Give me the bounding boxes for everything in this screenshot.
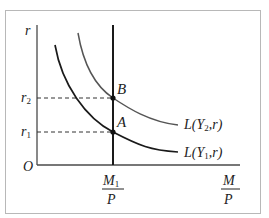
x-axis-label-numerator: M: [222, 173, 236, 188]
origin-label: O: [23, 159, 33, 174]
curve-y1-label: L(Y1,r): [183, 145, 223, 161]
supply-label-denominator: P: [106, 192, 116, 207]
curve-y2-label: L(Y2,r): [183, 117, 223, 133]
supply-label-numerator: M1: [102, 173, 119, 189]
point-a-marker: [110, 129, 115, 134]
point-b-label: B: [117, 81, 126, 97]
point-b-marker: [110, 95, 115, 100]
money-market-diagram: r r2 r1 O B A L(Y2,r) L(Y1,r) M1 P M P: [0, 0, 269, 218]
r1-label: r1: [21, 124, 31, 140]
point-a-label: A: [116, 114, 127, 130]
r2-label: r2: [21, 90, 31, 106]
demand-curve-y2: [78, 33, 178, 125]
y-axis-label: r: [25, 23, 31, 38]
x-axis-label-denominator: P: [223, 192, 233, 207]
